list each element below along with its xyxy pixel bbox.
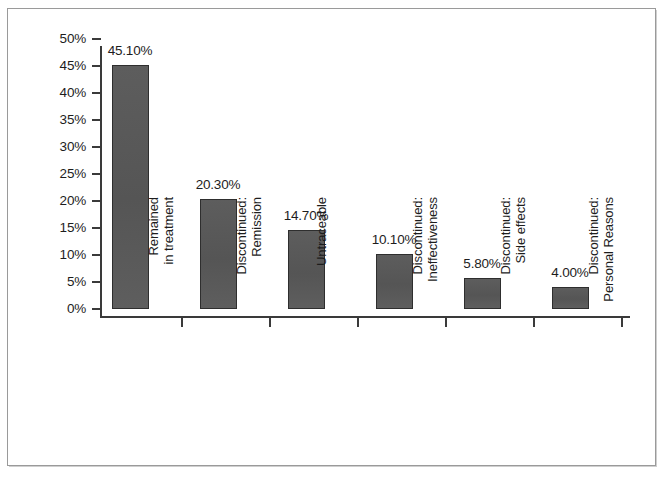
figure-frame: 0%5%10%15%20%25%30%35%40%45%50% 45.10%20… — [7, 8, 656, 466]
bar — [552, 287, 589, 309]
category-label-line: Remained — [146, 197, 161, 327]
category-label-line: Personal Reasons — [601, 197, 616, 327]
bar — [376, 254, 413, 309]
y-axis-tick — [92, 173, 101, 175]
y-axis-tick-label: 30% — [30, 140, 86, 154]
bar-fill — [113, 66, 148, 308]
y-axis-tick-label: 5% — [30, 275, 86, 289]
bar-fill — [553, 288, 588, 308]
y-axis-tick — [92, 308, 101, 310]
y-axis-tick-label: 20% — [30, 194, 86, 208]
y-axis-tick — [92, 119, 101, 121]
y-axis-line — [100, 46, 102, 318]
bar — [200, 199, 237, 309]
x-axis-tick — [269, 318, 271, 327]
bar-value-label: 20.30% — [173, 178, 263, 192]
y-axis-tick-label: 15% — [30, 221, 86, 235]
x-axis-line — [100, 316, 630, 318]
category-label-line: Ineffectiveness — [425, 197, 440, 327]
y-axis-tick — [92, 281, 101, 283]
bar-value-label: 14.70% — [261, 209, 351, 223]
bar-fill — [465, 279, 500, 308]
x-axis-tick — [445, 318, 447, 327]
chart-figure: 0%5%10%15%20%25%30%35%40%45%50% 45.10%20… — [0, 0, 666, 486]
category-label-line: in treatment — [161, 197, 176, 327]
category-label-line: Untraceable — [314, 197, 329, 327]
y-axis-tick — [92, 65, 101, 67]
bar — [112, 65, 149, 309]
y-axis-tick-label: 0% — [30, 302, 86, 316]
bar — [464, 278, 501, 309]
y-axis-tick — [92, 200, 101, 202]
category-label-line: Discontinued: — [498, 197, 513, 327]
category-label-line: Remission — [249, 197, 264, 327]
y-axis-tick-label: 50% — [30, 32, 86, 46]
y-axis-tick-label: 10% — [30, 248, 86, 262]
x-axis-tick — [357, 318, 359, 327]
y-axis-tick — [92, 254, 101, 256]
category-label-line: Discontinued: — [586, 197, 601, 327]
y-axis-tick-labels: 0%5%10%15%20%25%30%35%40%45%50% — [30, 9, 86, 486]
bar-fill — [201, 200, 236, 308]
y-axis-tick — [92, 92, 101, 94]
y-axis-tick — [92, 146, 101, 148]
x-axis-tick — [533, 318, 535, 327]
y-axis-tick-label: 40% — [30, 86, 86, 100]
x-axis-tick — [181, 318, 183, 327]
y-axis-tick-label: 45% — [30, 59, 86, 73]
category-label-line: Discontinued: — [234, 197, 249, 327]
y-axis-tick-label: 25% — [30, 167, 86, 181]
y-axis-tick — [92, 227, 101, 229]
bar-value-label: 45.10% — [85, 44, 175, 58]
y-axis-tick-label: 35% — [30, 113, 86, 127]
category-label-line: Side effects — [513, 197, 528, 327]
bar-fill — [377, 255, 412, 308]
x-axis-tick — [621, 318, 623, 327]
category-label-line: Discontinued: — [410, 197, 425, 327]
y-axis-tick — [92, 38, 101, 40]
